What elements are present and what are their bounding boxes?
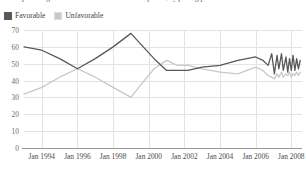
x-axis-tick-label: Jan 2002: [171, 152, 197, 161]
x-axis-tick-label: Jan 1998: [100, 152, 126, 161]
legend-swatch-icon: [54, 12, 62, 20]
chart-figure: percentage of Americans with a favorable…: [0, 0, 306, 171]
series-line-favorable: [24, 33, 300, 73]
y-axis-tick-label: 60: [12, 43, 19, 50]
legend-swatch-icon: [4, 12, 12, 20]
x-axis-tick-label: Jan 1996: [64, 152, 90, 161]
y-axis-tick-label: 30: [12, 94, 19, 101]
y-axis-tick-label: 70: [12, 27, 19, 34]
y-axis-tick-label: 0: [15, 145, 19, 152]
y-axis-labels: 010203040506070: [0, 30, 22, 148]
y-axis-tick-label: 50: [12, 60, 19, 67]
x-axis-tick-label: Jan 2004: [207, 152, 233, 161]
y-axis-tick-label: 10: [12, 128, 19, 135]
chart-legend: Favorable Unfavorable: [4, 10, 103, 21]
legend-item-unfavorable[interactable]: Unfavorable: [54, 12, 103, 20]
series-lines: [24, 30, 302, 148]
x-axis-labels: Jan 1994Jan 1996Jan 1998Jan 2000Jan 2002…: [0, 152, 306, 166]
figure-caption-text: percentage of Americans with a favorable…: [22, 0, 219, 2]
legend-label-favorable: Favorable: [15, 12, 45, 20]
x-axis-tick-label: Jan 2006: [242, 152, 268, 161]
x-axis-tick-label: Jan 2008: [278, 152, 304, 161]
legend-label-unfavorable: Unfavorable: [65, 12, 103, 20]
plot-area: [24, 30, 302, 148]
y-axis-tick-label: 20: [12, 111, 19, 118]
x-axis-tick-label: Jan 2000: [135, 152, 161, 161]
y-axis-tick-label: 40: [12, 77, 19, 84]
x-axis-tick-label: Jan 1994: [29, 152, 55, 161]
legend-item-favorable[interactable]: Favorable: [4, 12, 45, 20]
figure-caption-clipped: percentage of Americans with a favorable…: [0, 0, 306, 8]
x-axis-line: [22, 148, 302, 149]
